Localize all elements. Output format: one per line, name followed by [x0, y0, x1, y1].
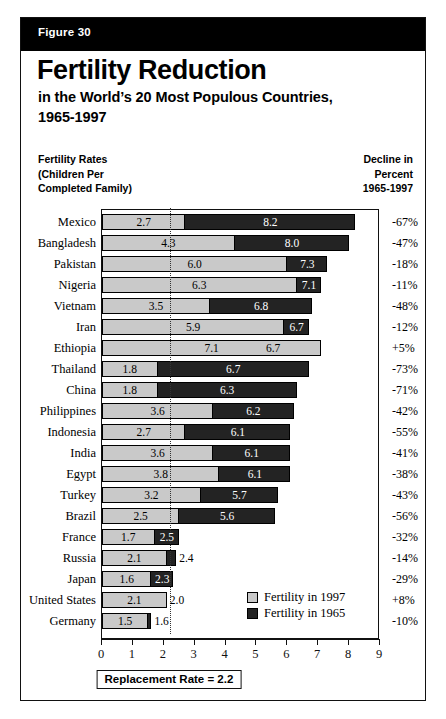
figure-page: Figure 30 Fertility Reduction in the Wor…	[0, 0, 446, 719]
country-label: Vietnam	[54, 298, 96, 314]
left-column-caption: Fertility Rates (Children Per Completed …	[38, 152, 132, 196]
figure-title: Fertility Reduction	[37, 57, 266, 84]
value-label-1965: 2.3	[155, 572, 169, 586]
decline-percent-label: -55%	[392, 424, 418, 440]
country-label: Nigeria	[59, 277, 96, 293]
value-label-1997: 2.7	[137, 425, 151, 439]
value-label-1965: 2.0	[170, 593, 184, 607]
chart-row: Turkey3.25.7-43%	[102, 485, 378, 506]
x-axis-tick	[286, 639, 287, 645]
country-label: Indonesia	[47, 424, 96, 440]
value-label-1997: 7.1	[204, 341, 218, 355]
figure-subtitle-line2: 1965-1997	[38, 110, 106, 125]
country-label: France	[62, 529, 96, 545]
chart-row: Russia2.12.4-14%	[102, 548, 378, 569]
right-caption-line3: 1965-1997	[363, 181, 413, 196]
x-axis-tick-label: 1	[129, 647, 135, 662]
value-label-1965: 7.1	[302, 278, 316, 292]
decline-percent-label: -73%	[392, 361, 418, 377]
left-caption-line2: (Children Per	[38, 167, 132, 182]
chart-row: Japan1.62.3-29%	[102, 569, 378, 590]
decline-percent-label: -11%	[392, 277, 418, 293]
replacement-rate-note: Replacement Rate = 2.2	[97, 670, 242, 689]
x-axis: 0123456789	[101, 639, 379, 640]
decline-percent-label: -14%	[392, 550, 418, 566]
chart-row: Philippines3.66.2-42%	[102, 401, 378, 422]
country-label: Bangladesh	[38, 235, 96, 251]
figure-frame: Figure 30 Fertility Reduction in the Wor…	[20, 17, 426, 701]
country-label: Turkey	[60, 487, 96, 503]
country-label: Mexico	[58, 214, 96, 230]
value-label-1965: 2.5	[160, 530, 174, 544]
value-label-1965: 6.1	[231, 425, 245, 439]
chart-plot-area: Mexico2.78.2-67%Bangladesh4.38.0-47%Paki…	[101, 209, 379, 639]
country-label: China	[66, 382, 96, 398]
country-label: India	[70, 445, 96, 461]
chart-row: France1.72.5-32%	[102, 527, 378, 548]
country-label: Thailand	[52, 361, 96, 377]
x-axis-tick	[379, 639, 380, 645]
decline-percent-label: +5%	[392, 340, 415, 356]
chart-row: Indonesia2.76.1-55%	[102, 422, 378, 443]
x-axis-tick	[348, 639, 349, 645]
value-label-1965: 6.8	[254, 299, 268, 313]
value-label-1997: 2.1	[127, 551, 141, 565]
legend-item-1965: Fertility in 1965	[247, 606, 345, 621]
replacement-rate-guide-line	[170, 208, 171, 634]
value-label-1997: 1.8	[123, 383, 137, 397]
right-caption-line1: Decline in	[363, 152, 413, 167]
chart-row: India3.66.1-41%	[102, 443, 378, 464]
value-label-1965: 5.7	[232, 488, 246, 502]
legend-label-1965: Fertility in 1965	[264, 606, 345, 621]
value-label-1965: 6.3	[220, 383, 234, 397]
country-label: Germany	[49, 613, 96, 629]
left-caption-line1: Fertility Rates	[38, 152, 132, 167]
value-label-1965: 1.6	[154, 614, 168, 628]
value-label-1965: 6.7	[226, 362, 240, 376]
value-label-1965: 6.2	[246, 404, 260, 418]
x-axis-line	[101, 639, 379, 640]
value-label-1965: 7.3	[300, 257, 314, 271]
x-axis-tick-label: 7	[314, 647, 320, 662]
decline-percent-label: -32%	[392, 529, 418, 545]
x-axis-tick-label: 2	[160, 647, 166, 662]
value-label-1997: 1.5	[118, 614, 132, 628]
decline-percent-label: -41%	[392, 445, 418, 461]
decline-percent-label: -42%	[392, 403, 418, 419]
chart-legend: Fertility in 1997 Fertility in 1965	[247, 590, 345, 622]
country-label: Ethiopia	[54, 340, 96, 356]
decline-percent-label: -47%	[392, 235, 418, 251]
chart-rows: Mexico2.78.2-67%Bangladesh4.38.0-47%Paki…	[102, 210, 378, 638]
value-label-1965: 2.4	[179, 551, 193, 565]
x-axis-tick-label: 4	[221, 647, 227, 662]
value-label-1965: 6.1	[248, 467, 262, 481]
x-axis-tick-label: 5	[252, 647, 258, 662]
decline-percent-label: -71%	[392, 382, 418, 398]
value-label-1997: 2.5	[133, 509, 147, 523]
decline-percent-label: -67%	[392, 214, 418, 230]
chart-row: Ethiopia7.16.7+5%	[102, 338, 378, 359]
value-label-1997: 5.9	[186, 320, 200, 334]
value-label-1997: 2.1	[127, 593, 141, 607]
x-axis-tick	[225, 639, 226, 645]
country-label: United States	[29, 592, 96, 608]
value-label-1997: 3.6	[150, 404, 164, 418]
x-axis-tick-label: 3	[191, 647, 197, 662]
decline-percent-label: -38%	[392, 466, 418, 482]
value-label-1965: 6.1	[245, 446, 259, 460]
chart-row: Iran5.96.7-12%	[102, 317, 378, 338]
country-label: Pakistan	[54, 256, 96, 272]
legend-swatch-1965-icon	[247, 608, 258, 619]
decline-percent-label: -18%	[392, 256, 418, 272]
value-label-1997: 1.8	[123, 362, 137, 376]
value-label-1997: 3.8	[154, 467, 168, 481]
country-label: Russia	[63, 550, 96, 566]
x-axis-tick	[317, 639, 318, 645]
decline-percent-label: -56%	[392, 508, 418, 524]
chart-row: Egypt3.86.1-38%	[102, 464, 378, 485]
legend-item-1997: Fertility in 1997	[247, 590, 345, 605]
x-axis-tick	[101, 639, 102, 645]
chart-row: Thailand1.86.7-73%	[102, 359, 378, 380]
value-label-1997: 3.5	[149, 299, 163, 313]
value-label-1997: 1.6	[120, 572, 134, 586]
